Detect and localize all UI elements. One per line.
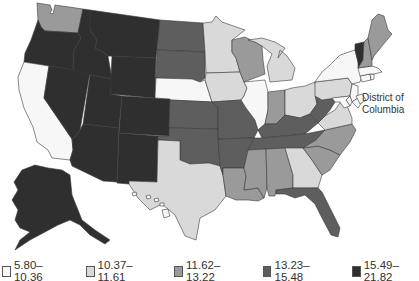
state-HI-3 xyxy=(154,198,159,202)
state-NE xyxy=(155,78,212,102)
state-ND xyxy=(157,20,205,52)
state-CO xyxy=(119,96,170,136)
state-NY xyxy=(315,50,362,84)
legend-label-1: 5.80–10.36 xyxy=(14,259,64,281)
us-choropleth-map xyxy=(0,0,419,258)
state-HI-4 xyxy=(160,203,164,206)
legend-item-2: 10.37–11.61 xyxy=(86,259,152,281)
legend-label-2: 10.37–11.61 xyxy=(98,259,153,281)
state-WY xyxy=(110,56,156,98)
legend-swatch-3 xyxy=(174,266,183,277)
state-SD xyxy=(156,50,205,82)
legend: 5.80–10.36 10.37–11.61 11.62–13.22 13.23… xyxy=(2,263,419,279)
dc-label: District of Columbia xyxy=(362,92,419,116)
state-RI xyxy=(370,74,374,80)
legend-swatch-5 xyxy=(352,266,361,277)
state-HI-1 xyxy=(132,192,137,196)
legend-label-3: 11.62–13.22 xyxy=(186,259,241,281)
state-HI-5 xyxy=(162,209,170,218)
state-IA xyxy=(205,72,247,102)
legend-item-3: 11.62–13.22 xyxy=(174,259,240,281)
legend-item-5: 15.49–21.82 xyxy=(352,259,419,281)
state-WA xyxy=(37,3,83,33)
legend-label-4: 13.23–15.48 xyxy=(274,259,329,281)
legend-swatch-4 xyxy=(263,266,272,277)
legend-label-5: 15.49–21.82 xyxy=(364,259,419,281)
legend-item-1: 5.80–10.36 xyxy=(2,259,64,281)
state-NM xyxy=(117,133,158,184)
legend-swatch-1 xyxy=(2,266,11,277)
legend-item-4: 13.23–15.48 xyxy=(263,259,330,281)
legend-swatch-2 xyxy=(86,266,95,277)
state-MT xyxy=(90,10,160,58)
state-ME xyxy=(368,14,392,60)
state-HI-2 xyxy=(146,195,151,199)
state-FL xyxy=(276,188,340,237)
state-AK xyxy=(12,165,110,250)
state-KS xyxy=(169,100,218,129)
